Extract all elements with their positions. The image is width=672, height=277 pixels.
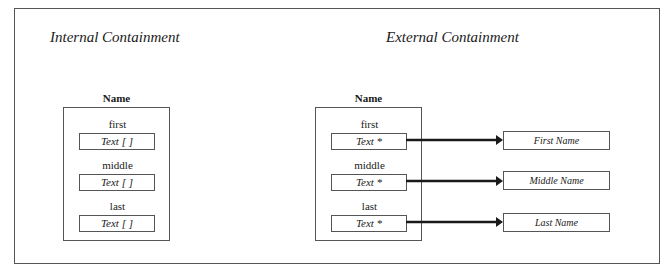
arrowhead-icon: [496, 176, 503, 186]
target-last-name: Last Name: [503, 213, 610, 232]
target-middle-name: Middle Name: [503, 171, 610, 190]
arrowhead-icon: [496, 135, 503, 145]
target-first-name: First Name: [503, 131, 610, 150]
arrowhead-icon: [496, 217, 503, 227]
